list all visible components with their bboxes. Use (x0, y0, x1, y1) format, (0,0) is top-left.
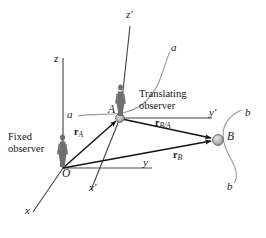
axis-label-z: z (54, 53, 58, 64)
fixed-observer-line2: observer (8, 143, 44, 155)
translating-observer-label: Translating observer (139, 88, 186, 112)
vector-subscript-r-B: B (177, 153, 182, 162)
axis-label-y: y (143, 157, 148, 168)
translating-observer-line2: observer (139, 100, 186, 112)
curve-label-b-lower: b (227, 181, 233, 192)
translating-observer-figure (115, 85, 126, 117)
vector-r-B (63, 141, 211, 168)
curve-label-a-upper: a (171, 42, 177, 53)
axis-label-y-prime: y′ (209, 107, 216, 118)
fixed-observer-line1: Fixed (8, 131, 44, 143)
axis-label-z-prime: z′ (126, 9, 133, 20)
point-label-O: O (62, 168, 70, 180)
axis-label-x-prime: x′ (89, 182, 96, 193)
point-label-A: A (108, 104, 115, 116)
axis-x (33, 168, 63, 212)
point-label-B: B (227, 131, 234, 143)
axis-label-x: x (25, 205, 30, 216)
fixed-observer-figure (57, 134, 68, 167)
vector-r-A (63, 121, 116, 168)
fixed-observer-label: Fixed observer (8, 131, 44, 155)
vector-subscript-r-A: A (78, 130, 83, 139)
axis-x-prime (91, 118, 120, 190)
diagram-canvas (0, 0, 266, 238)
node-B (213, 135, 224, 146)
relative-motion-diagram: z y x z′ y′ x′ O A B a a b b rA rB/A rB … (0, 0, 266, 238)
curve-label-b-upper: b (245, 107, 251, 118)
translating-observer-line1: Translating (139, 88, 186, 100)
vector-label-r-B: rB (173, 150, 182, 160)
curve-label-a-lower: a (67, 109, 73, 120)
vector-label-r-B-over-A: rB/A (155, 118, 171, 128)
vector-subscript-r-B-over-A: B/A (159, 121, 170, 130)
vector-label-r-A: rA (74, 127, 83, 137)
path-curve-b (223, 110, 241, 183)
vectors-group (63, 119, 211, 168)
